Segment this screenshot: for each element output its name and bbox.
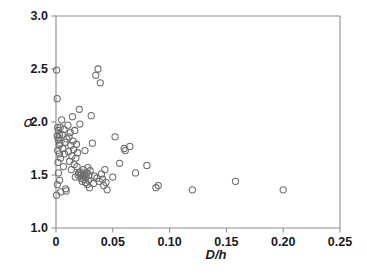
x-tick-label-0.05: 0.05 <box>101 235 125 249</box>
scatter-plot-figure: 1.01.52.02.53.000.050.100.150.200.25σD/h… <box>0 0 367 274</box>
y-tick-label-3.0: 3.0 <box>31 9 48 23</box>
data-point <box>60 163 66 169</box>
data-point <box>54 96 60 102</box>
plot-canvas: 1.01.52.02.53.000.050.100.150.200.25σD/h <box>0 0 367 274</box>
data-point <box>65 122 71 128</box>
x-tick-label-0.25: 0.25 <box>328 235 352 249</box>
x-tick-label-0.10: 0.10 <box>157 235 181 249</box>
x-tick-label-0.20: 0.20 <box>271 235 295 249</box>
data-point <box>102 167 108 173</box>
data-point <box>82 148 88 154</box>
data-point <box>189 187 195 193</box>
data-point <box>53 67 59 73</box>
data-point <box>117 160 123 166</box>
data-series-samples <box>53 66 286 198</box>
plot-frame <box>56 16 340 228</box>
data-point <box>89 140 95 146</box>
data-point <box>110 174 116 180</box>
data-point <box>127 143 133 149</box>
data-point <box>112 134 118 140</box>
data-point <box>59 117 65 123</box>
data-point <box>76 106 82 112</box>
data-point <box>95 66 101 72</box>
data-point <box>97 80 103 86</box>
y-axis-title-label: σ <box>23 114 33 130</box>
data-point <box>53 192 59 198</box>
y-tick-label-1.5: 1.5 <box>31 168 48 182</box>
data-point <box>88 113 94 119</box>
data-point <box>232 178 238 184</box>
x-tick-label-0: 0 <box>53 235 60 249</box>
y-tick-label-2.0: 2.0 <box>31 115 48 129</box>
data-point <box>69 114 75 120</box>
data-point <box>144 162 150 168</box>
data-point <box>280 187 286 193</box>
y-tick-label-2.5: 2.5 <box>31 62 48 76</box>
data-point <box>77 121 83 127</box>
data-point <box>93 72 99 78</box>
y-tick-label-1.0: 1.0 <box>31 221 48 235</box>
data-point <box>132 170 138 176</box>
data-point <box>104 187 110 193</box>
x-axis-title-label: D/h <box>206 247 227 262</box>
